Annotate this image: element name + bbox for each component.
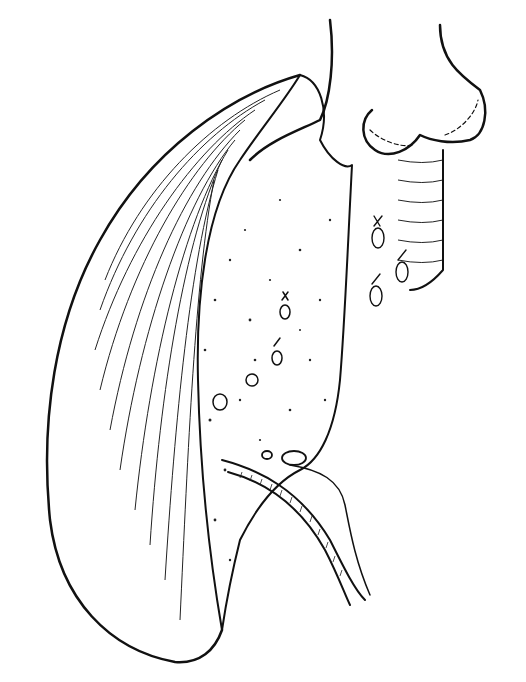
bronchial-stumps: [250, 20, 485, 306]
suture-line-right: [445, 100, 478, 135]
hilar-structure: [222, 451, 370, 605]
lung-outer-surface: [47, 75, 300, 662]
suture-line-left: [370, 130, 412, 146]
lung-illustration: [0, 0, 526, 682]
bronchus-rings: [398, 160, 443, 263]
stipple-dots: [204, 199, 331, 561]
illustration-canvas: [0, 0, 526, 682]
ligated-vessels: [213, 292, 290, 410]
